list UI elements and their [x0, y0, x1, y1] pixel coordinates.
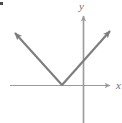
- abs-value-left-arm: [15, 33, 62, 85]
- graph-figure: y x: [0, 0, 122, 123]
- coordinate-graph-svg: [0, 0, 122, 123]
- corner-mark-icon: [0, 2, 3, 5]
- y-axis-label: y: [79, 1, 84, 12]
- abs-value-right-arm: [62, 31, 110, 85]
- x-axis-label: x: [116, 80, 121, 91]
